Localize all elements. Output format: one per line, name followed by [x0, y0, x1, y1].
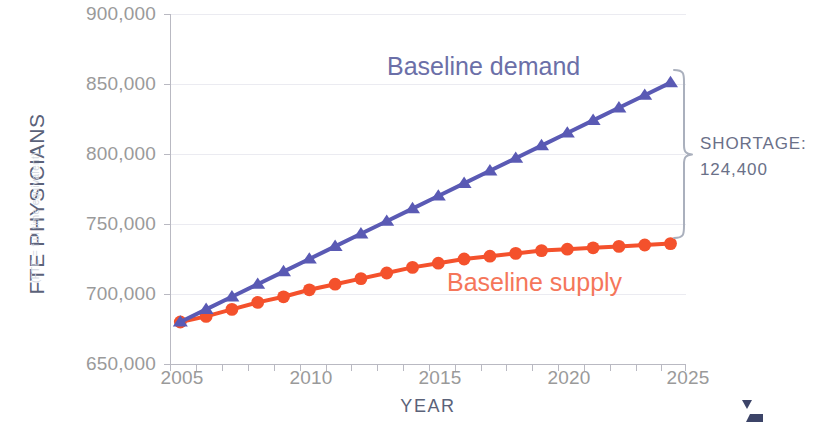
data-point-circle — [664, 237, 677, 250]
data-point-circle — [458, 253, 471, 266]
data-point-circle — [226, 303, 239, 316]
data-point-circle — [329, 278, 342, 291]
data-point-circle — [613, 240, 626, 253]
y-tick-label: 850,000 — [62, 73, 156, 95]
data-point-circle — [277, 290, 290, 303]
data-point-circle — [638, 239, 651, 252]
y-tick-label: 750,000 — [62, 213, 156, 235]
shortage-title: SHORTAGE: — [700, 131, 807, 157]
corner-logo-mark — [741, 398, 767, 422]
x-tick-2010: 2010 — [266, 367, 356, 389]
data-point-circle — [303, 283, 316, 296]
x-tick-2025: 2025 — [643, 367, 733, 389]
data-point-circle — [355, 272, 368, 285]
y-tick-label: 700,000 — [62, 283, 156, 305]
data-point-circle — [432, 257, 445, 270]
data-point-circle — [251, 296, 264, 309]
shortage-value: 124,400 — [700, 157, 807, 183]
data-point-circle — [406, 261, 419, 274]
series-label-baseline-demand: Baseline demand — [387, 52, 580, 81]
y-axis-subtitle: (FTE = full time equivalent) — [30, 133, 41, 303]
data-point-triangle — [663, 76, 678, 87]
data-point-circle — [587, 241, 600, 254]
x-tick-2005: 2005 — [137, 367, 227, 389]
data-point-circle — [509, 247, 522, 260]
data-point-circle — [535, 244, 548, 257]
data-point-circle — [380, 267, 393, 280]
y-tick-label: 900,000 — [62, 3, 156, 25]
data-point-circle — [561, 243, 574, 256]
x-tick-2020: 2020 — [524, 367, 614, 389]
shortage-annotation: SHORTAGE: 124,400 — [700, 131, 807, 183]
physician-shortage-chart: FTE PHYSICIANS (FTE = full time equivale… — [0, 0, 813, 422]
x-axis-title: YEAR — [170, 396, 686, 417]
y-axis-ticks — [164, 15, 170, 365]
y-tick-label: 800,000 — [62, 143, 156, 165]
series-label-baseline-supply: Baseline supply — [447, 268, 622, 297]
data-point-circle — [484, 250, 497, 263]
x-tick-2015: 2015 — [395, 367, 485, 389]
